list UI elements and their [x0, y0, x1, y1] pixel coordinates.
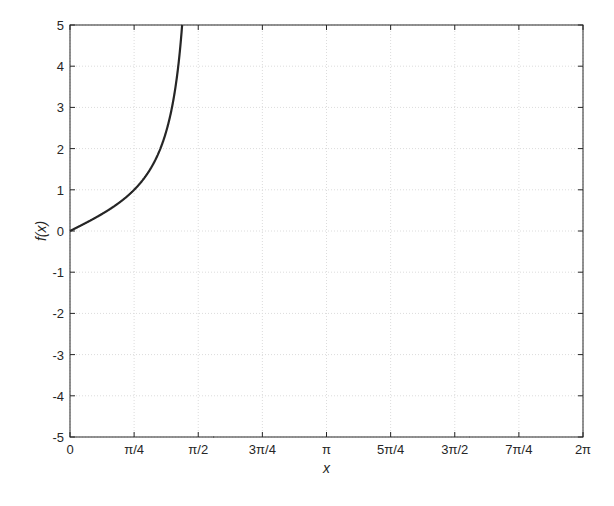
x-tick-label: 2π	[575, 442, 591, 457]
x-tick-label: π/2	[188, 442, 208, 457]
y-tick-label: -5	[52, 430, 64, 445]
y-tick-label: 5	[57, 18, 64, 33]
y-tick-label: -3	[52, 348, 64, 363]
x-tick-label: 5π/4	[377, 442, 404, 457]
y-tick-label: 3	[57, 100, 64, 115]
plot-frame	[70, 25, 583, 437]
y-tick-label: 0	[57, 224, 64, 239]
y-tick-label: -2	[52, 306, 64, 321]
y-tick-label: 1	[57, 183, 64, 198]
x-tick-label: 0	[66, 442, 73, 457]
x-axis-label: x	[322, 460, 331, 476]
x-tick-label: π/4	[124, 442, 144, 457]
grid-lines	[70, 25, 583, 437]
x-tick-label: 3π/2	[441, 442, 468, 457]
y-tick-label: -4	[52, 389, 64, 404]
y-tick-label: 4	[57, 59, 64, 74]
y-tick-label: 2	[57, 142, 64, 157]
chart: 0π/4π/23π/4π5π/43π/27π/42π -5-4-3-2-1012…	[0, 0, 614, 506]
y-axis-ticks: -5-4-3-2-1012345	[52, 18, 583, 445]
x-tick-label: 7π/4	[505, 442, 532, 457]
x-tick-label: 3π/4	[249, 442, 276, 457]
y-tick-label: -1	[52, 265, 64, 280]
x-tick-label: π	[322, 442, 331, 457]
x-axis-ticks: 0π/4π/23π/4π5π/43π/27π/42π	[66, 25, 591, 457]
y-axis-label: f(x)	[33, 221, 49, 241]
